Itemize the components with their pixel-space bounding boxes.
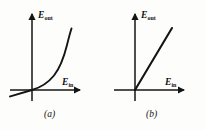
figure-panel-b: Eout Ein (b) [103, 0, 205, 130]
panel-a-y-axis-subscript: out [45, 15, 53, 21]
panel-b-x-axis-subscript: in [172, 82, 177, 88]
panel-b-x-axis-label: Ein [165, 72, 176, 88]
panel-a-y-axis-variable: E [38, 10, 44, 20]
panel-a-caption: (a) [44, 110, 55, 120]
panel-b-y-axis-label: Eout [141, 5, 155, 21]
panel-b-caption: (b) [146, 110, 157, 120]
figure-panel-a: Eout Ein (a) [0, 0, 103, 130]
panel-b-x-axis-variable: E [165, 77, 171, 87]
panel-b-y-axis-variable: E [141, 10, 147, 20]
panel-a-x-axis-subscript: in [69, 82, 74, 88]
panel-a-x-axis-label: Ein [62, 72, 73, 88]
panel-a-y-axis-label: Eout [38, 5, 52, 21]
panel-b-y-axis-subscript: out [148, 15, 156, 21]
panel-a-x-axis-variable: E [62, 77, 68, 87]
figure-root: Eout Ein (a) Eout [0, 0, 205, 130]
